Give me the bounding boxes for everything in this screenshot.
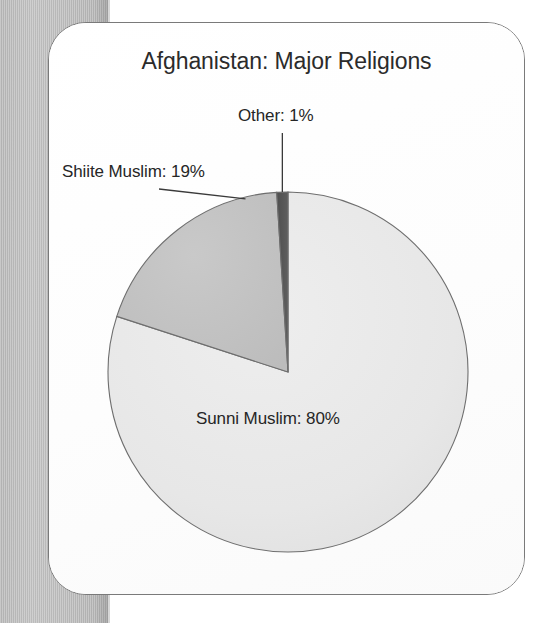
figure-page: Afghanistan: Major Religions [0, 0, 550, 623]
pie-chart-plot [0, 0, 550, 623]
pie-label-shiite-muslim: Shiite Muslim: 19% [62, 162, 205, 182]
pie-label-other: Other: 1% [238, 106, 314, 126]
leader-line-shiite-muslim [159, 189, 245, 199]
pie-label-sunni-muslim: Sunni Muslim: 80% [196, 409, 340, 429]
